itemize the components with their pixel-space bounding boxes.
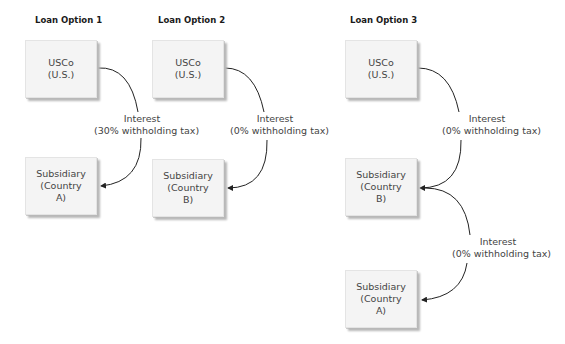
flow-label-line: (0% withholding tax) (230, 125, 320, 137)
flow-label-line: Interest (442, 113, 532, 125)
box-usco-option-3: USCo(U.S.) (345, 40, 417, 98)
box-label: B) (163, 194, 213, 206)
box-label: (Country (356, 293, 406, 305)
flow-label-option-3-bottom: Interest (0% withholding tax) (452, 236, 544, 260)
box-label: (Country (356, 181, 406, 193)
flow-label-line: (0% withholding tax) (452, 248, 544, 260)
flow-label-option-2: Interest (0% withholding tax) (230, 113, 320, 137)
flow-label-line: (30% withholding tax) (94, 125, 190, 137)
box-label: (Country (36, 180, 86, 192)
flow-curve-opt3-bottom-a (425, 188, 470, 235)
flow-curve-opt3-top-a (418, 68, 459, 112)
flow-label-line: (0% withholding tax) (442, 125, 532, 137)
box-subsidiary-a-option-3: Subsidiary(CountryA) (345, 270, 417, 328)
flow-curve-opt3-bottom-b (422, 263, 467, 300)
box-label: (Country (163, 182, 213, 194)
box-subsidiary-b-option-2: Subsidiary(CountryB) (152, 159, 224, 217)
box-label: USCo (175, 57, 201, 69)
box-label: A) (356, 305, 406, 317)
box-label: B) (356, 193, 406, 205)
flow-label-line: Interest (230, 113, 320, 125)
box-label: A) (36, 192, 86, 204)
flow-label-option-3-top: Interest (0% withholding tax) (442, 113, 532, 137)
box-label: Subsidiary (356, 169, 406, 181)
flow-curve-opt3-top-b (420, 140, 461, 188)
box-label: Subsidiary (356, 281, 406, 293)
box-label: (U.S.) (48, 69, 74, 81)
flow-curve-opt1-top (98, 68, 138, 112)
flow-label-line: Interest (94, 113, 190, 125)
flow-label-option-1: Interest (30% withholding tax) (94, 113, 190, 137)
box-subsidiary-a-option-1: Subsidiary(CountryA) (25, 157, 97, 215)
flow-curve-opt2-bottom (228, 140, 267, 188)
box-label: Subsidiary (163, 170, 213, 182)
box-label: USCo (48, 57, 74, 69)
box-subsidiary-b-option-3: Subsidiary(CountryB) (345, 158, 417, 216)
flow-curve-opt2-top (225, 68, 264, 112)
box-usco-option-1: USCo(U.S.) (25, 40, 97, 98)
box-label: (U.S.) (175, 69, 201, 81)
box-label: (U.S.) (368, 69, 394, 81)
box-usco-option-2: USCo(U.S.) (152, 40, 224, 98)
box-label: Subsidiary (36, 168, 86, 180)
box-label: USCo (368, 57, 394, 69)
flow-label-line: Interest (452, 236, 544, 248)
flow-curve-opt1-bottom (101, 138, 141, 186)
